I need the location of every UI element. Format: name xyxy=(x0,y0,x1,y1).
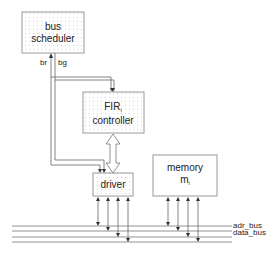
svg-text:FIRi: FIRi xyxy=(104,101,121,113)
br-arrow-icon xyxy=(49,53,53,58)
fir-controller-block: FIRi controller xyxy=(83,92,144,133)
memory-block: memory mi xyxy=(153,155,217,196)
fir-driver-data-path-icon xyxy=(106,134,120,173)
bus-scheduler-label-line2: scheduler xyxy=(31,33,75,44)
driver-block: driver xyxy=(93,173,133,196)
bus-scheduler-label-line1: bus xyxy=(45,21,61,32)
bg-signal-label: bg xyxy=(58,58,67,67)
driver-bus-arrow-icons xyxy=(96,197,130,242)
driver-bus-connections xyxy=(98,198,128,240)
driver-label: driver xyxy=(100,179,126,190)
memory-label-line1: memory xyxy=(167,162,203,173)
memory-bus-arrow-icons xyxy=(166,197,200,242)
fir-bus-architecture-diagram: bus scheduler br bg FIRi controller driv… xyxy=(0,0,277,260)
bus-scheduler-block: bus scheduler xyxy=(22,12,84,53)
bg-line-to-fir-a xyxy=(51,77,111,91)
data-bus-label: data_bus xyxy=(233,228,266,237)
driver-br-arrow-icon xyxy=(98,169,102,173)
driver-bg-arrow-icon xyxy=(102,169,106,173)
fir-controller-label-line2: controller xyxy=(92,115,134,126)
bg-line-to-fir-b xyxy=(55,80,114,91)
svg-text:mi: mi xyxy=(180,174,190,186)
br-signal-label: br xyxy=(40,58,47,67)
fir-subscript: i xyxy=(120,107,121,113)
memory-bus-connections xyxy=(168,198,198,240)
memory-m-label: m xyxy=(180,174,188,185)
memory-subscript: i xyxy=(189,180,190,186)
fir-label: FIR xyxy=(104,101,120,112)
